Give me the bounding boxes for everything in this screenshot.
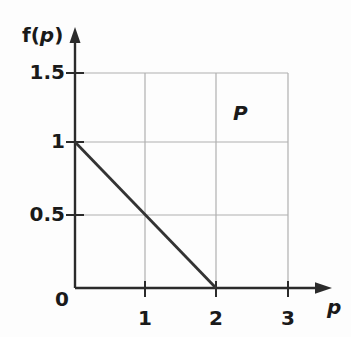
y-axis-label-paren: ) (54, 23, 63, 47)
chart-figure: f(p) p 1.5 1 0.5 0 1 2 3 P (0, 0, 351, 337)
y-tick-label-1.5: 1.5 (5, 62, 65, 82)
chart-background (0, 0, 351, 337)
y-axis-label: f(p) (22, 25, 63, 45)
x-tick-label-3: 3 (268, 308, 308, 328)
x-tick-label-2: 2 (196, 308, 236, 328)
y-tick-label-1: 1 (5, 131, 65, 151)
chart-canvas (0, 0, 351, 337)
region-annotation-p: P (233, 103, 248, 123)
y-axis-label-var: p (40, 23, 54, 47)
x-tick-label-1: 1 (125, 308, 165, 328)
y-axis-label-text: f( (22, 23, 40, 47)
y-tick-label-0.5: 0.5 (5, 204, 65, 224)
x-axis-label: p (327, 297, 341, 317)
origin-label-0: 0 (55, 289, 69, 309)
